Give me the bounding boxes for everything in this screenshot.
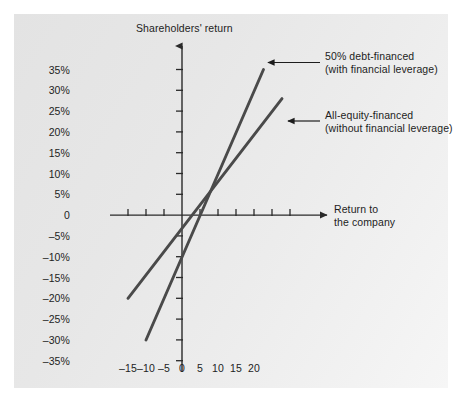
y-tick-label: –25% — [24, 313, 70, 325]
y-tick-label: –15% — [24, 272, 70, 284]
y-tick-label: 0 — [24, 209, 70, 221]
y-tick-label: –5% — [24, 230, 70, 242]
x-tick-label: 20 — [241, 362, 267, 374]
x-axis-title-line2: the company — [334, 216, 395, 228]
debt-financed-callout-line2: (with financial leverage) — [325, 63, 438, 76]
y-tick-label: –30% — [24, 334, 70, 346]
y-tick-label: 10% — [24, 168, 70, 180]
all-equity-callout-line1: All-equity-financed — [325, 109, 413, 122]
y-tick-label: 5% — [24, 188, 70, 200]
y-tick-label: 20% — [24, 126, 70, 138]
y-axis — [176, 46, 183, 372]
y-tick-label: 35% — [24, 64, 70, 76]
y-tick-label: –10% — [24, 251, 70, 263]
x-axis — [110, 209, 327, 216]
y-tick-label: –35% — [24, 355, 70, 367]
y-tick-label: –20% — [24, 292, 70, 304]
y-axis-title: Shareholders' return — [136, 22, 233, 34]
x-axis-title-line1: Return to — [334, 203, 378, 215]
series-line-all-equity — [128, 99, 282, 299]
chart-screenshot: Shareholders' return Return to the compa… — [0, 0, 462, 403]
all-equity-callout-line2: (without financial leverage) — [325, 122, 453, 135]
debt-financed-callout-line1: 50% debt-financed — [325, 50, 414, 63]
y-tick-label: 30% — [24, 84, 70, 96]
series-line-debt-financed — [146, 70, 264, 341]
y-tick-label: 15% — [24, 147, 70, 159]
y-tick-label: 25% — [24, 105, 70, 117]
